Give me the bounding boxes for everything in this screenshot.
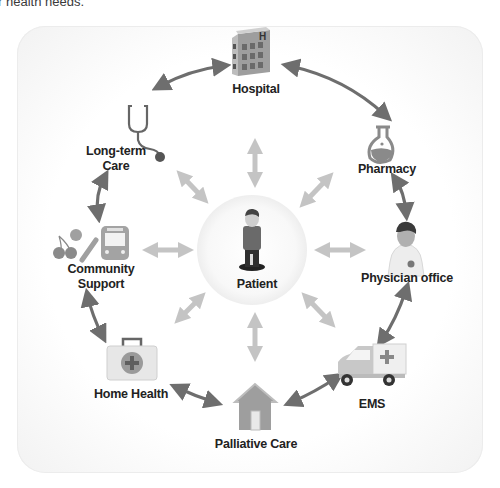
node-label-longterm-line2: Care <box>86 159 146 174</box>
node-label-ems: EMS <box>359 397 386 412</box>
node-label-community-support: Community Support <box>68 262 135 292</box>
house-icon <box>235 384 276 430</box>
arrow-patient-longterm <box>182 176 203 198</box>
node-label-long-term-care: Long-term Care <box>86 144 146 174</box>
doctor-icon <box>388 222 424 276</box>
center-label-patient: Patient <box>237 277 277 292</box>
node-label-pharmacy: Pharmacy <box>358 162 416 177</box>
flask-icon <box>369 127 393 163</box>
svg-text:H: H <box>259 31 266 42</box>
hospital-building-icon: H <box>232 27 270 76</box>
node-label-longterm-line1: Long-term <box>86 144 146 159</box>
arrow-physician-ems <box>382 290 406 340</box>
node-label-community-line1: Community <box>68 262 135 277</box>
care-network-diagram: H <box>0 0 500 488</box>
arrow-pharmacy-physician <box>396 180 406 212</box>
medical-kit-icon <box>107 339 157 380</box>
arrow-community-homehealth <box>88 297 102 335</box>
node-label-home-health: Home Health <box>94 387 168 402</box>
node-label-physician-office: Physician office <box>361 271 453 286</box>
arrow-homehealth-palliative <box>178 388 214 402</box>
arrow-community-longterm <box>97 178 104 214</box>
arrow-hospital-pharmacy <box>290 66 385 115</box>
node-label-hospital: Hospital <box>232 82 280 97</box>
ambulance-icon <box>338 344 406 386</box>
node-label-community-line2: Support <box>68 277 135 292</box>
arrow-longterm-hospital <box>160 66 222 86</box>
arrow-patient-ems <box>307 298 330 322</box>
arrow-ems-palliative <box>292 378 336 402</box>
node-label-palliative-care: Palliative Care <box>215 437 297 452</box>
arrow-patient-pharmacy <box>305 178 328 202</box>
food-and-bus-icon <box>53 226 129 260</box>
arrow-patient-homehealth <box>180 298 200 318</box>
